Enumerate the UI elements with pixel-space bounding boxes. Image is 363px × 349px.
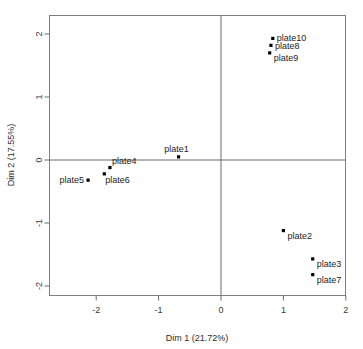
data-point-label-plate10: plate10	[277, 33, 307, 43]
reference-lines	[50, 16, 346, 296]
data-point-plate7	[311, 273, 314, 276]
data-point-label-plate7: plate7	[317, 275, 342, 285]
y-axis-ticks: -2-1012	[34, 31, 50, 290]
x-tick-label: 1	[281, 305, 286, 315]
data-point-plate5	[86, 179, 89, 182]
y-tick-label: -1	[34, 219, 44, 227]
y-axis-title: Dim 2 (17.55%)	[6, 124, 16, 187]
data-point-plate8	[269, 44, 272, 47]
data-point-label-plate6: plate6	[105, 175, 130, 185]
data-point-group: plate1plate2plate3plate4plate5plate6plat…	[60, 33, 342, 284]
x-tick-label: 2	[343, 305, 348, 315]
plot-frame	[50, 16, 346, 296]
data-point-plate1	[177, 155, 180, 158]
y-tick-label: 0	[34, 157, 44, 162]
data-point-plate3	[311, 257, 314, 260]
data-point-label-plate5: plate5	[60, 175, 85, 185]
data-point-label-plate3: plate3	[317, 259, 342, 269]
x-axis-ticks: -2-1012	[92, 296, 348, 315]
data-point-plate2	[282, 229, 285, 232]
x-tick-label: -2	[92, 305, 100, 315]
plot-canvas: -2-1012 -2-1012 plate1plate2plate3plate4…	[0, 0, 363, 349]
data-point-label-plate4: plate4	[112, 156, 137, 166]
scatter-plot-figure: -2-1012 -2-1012 plate1plate2plate3plate4…	[0, 0, 363, 349]
x-tick-label: -1	[155, 305, 163, 315]
data-point-label-plate9: plate9	[274, 53, 299, 63]
x-axis-title: Dim 1 (21.72%)	[166, 333, 229, 343]
y-tick-label: -2	[34, 282, 44, 290]
data-point-label-plate1: plate1	[164, 144, 189, 154]
data-point-label-plate2: plate2	[287, 231, 312, 241]
y-tick-label: 1	[34, 94, 44, 99]
data-point-plate4	[108, 166, 111, 169]
x-tick-label: 0	[218, 305, 223, 315]
data-point-plate9	[268, 51, 271, 54]
y-tick-label: 2	[34, 31, 44, 36]
data-point-plate10	[271, 37, 274, 40]
